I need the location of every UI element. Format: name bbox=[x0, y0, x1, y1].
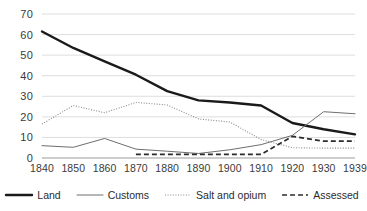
x-axis-tick-label: 1900 bbox=[218, 162, 242, 174]
x-axis-tick-label: 1850 bbox=[61, 162, 85, 174]
y-axis-tick-label: 70 bbox=[20, 9, 33, 20]
legend-item-assessed[interactable]: Assessed bbox=[282, 189, 359, 201]
x-axis-tick-label: 1930 bbox=[312, 162, 336, 174]
legend-label: Land bbox=[37, 189, 60, 201]
legend-label: Assessed bbox=[313, 189, 359, 201]
legend-item-land[interactable]: Land bbox=[6, 189, 60, 201]
x-axis-tick-label: 1910 bbox=[249, 162, 273, 174]
plot-area bbox=[42, 14, 355, 158]
series-layer bbox=[42, 14, 355, 158]
solid-thick-swatch bbox=[6, 190, 32, 200]
y-axis-tick-label: 60 bbox=[20, 29, 33, 40]
y-axis: 010203040506070 bbox=[0, 14, 38, 158]
y-axis-tick-label: 20 bbox=[20, 111, 33, 122]
y-axis-tick-label: 40 bbox=[20, 70, 33, 81]
x-axis-tick-label: 1870 bbox=[124, 162, 148, 174]
chart-legend: LandCustomsSalt and opiumAssessed bbox=[0, 183, 365, 207]
series-line-customs bbox=[42, 112, 355, 154]
x-axis-tick-label: 1860 bbox=[93, 162, 117, 174]
solid-thin-swatch bbox=[77, 190, 103, 200]
x-axis-tick-label: 1840 bbox=[30, 162, 54, 174]
x-axis-tick-label: 1890 bbox=[187, 162, 211, 174]
dashed-swatch bbox=[282, 190, 308, 200]
legend-item-customs[interactable]: Customs bbox=[77, 189, 149, 201]
legend-item-salt-and-opium[interactable]: Salt and opium bbox=[165, 189, 266, 201]
y-axis-tick-label: 10 bbox=[20, 132, 33, 143]
x-axis-tick-label: 1880 bbox=[155, 162, 179, 174]
y-axis-tick-label: 30 bbox=[20, 91, 33, 102]
x-axis-tick-label: 1920 bbox=[281, 162, 305, 174]
legend-label: Salt and opium bbox=[196, 189, 266, 201]
y-axis-tick-label: 50 bbox=[20, 50, 33, 61]
x-axis-tick-label: 1939 bbox=[343, 162, 367, 174]
x-axis: 1840185018601870188018901900191019201930… bbox=[42, 160, 355, 178]
legend-label: Customs bbox=[108, 189, 149, 201]
dotted-swatch bbox=[165, 190, 191, 200]
